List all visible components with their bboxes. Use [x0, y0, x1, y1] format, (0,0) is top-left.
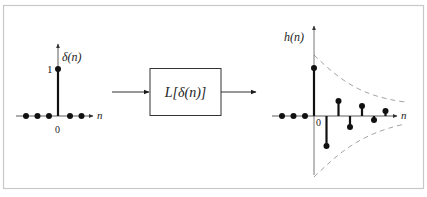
output-sample-n2: [336, 98, 342, 104]
output-sample-n3: [347, 124, 353, 130]
output-sample-n4: [359, 103, 365, 109]
output-sample-n1: [324, 143, 330, 149]
impulse-response-diagram: δ(n) 1 0 n L[δ(n)]: [0, 0, 427, 197]
input-sample-nm1: [46, 113, 52, 119]
output-sample-n5: [371, 117, 377, 123]
system-block-label: L[δ(n)]: [164, 85, 207, 101]
system: L[δ(n)]: [112, 69, 256, 116]
input-unit-label: 1: [47, 63, 53, 75]
output-plot: h(n) 0 n: [272, 26, 407, 177]
input-sample-n1: [67, 113, 73, 119]
input-signal-label: δ(n): [62, 50, 82, 64]
output-sample-n0: [311, 65, 317, 71]
input-n-axis-label: n: [97, 109, 103, 121]
output-sample-n6: [383, 108, 389, 114]
output-sample-nm2: [291, 113, 297, 119]
output-origin-label: 0: [316, 117, 321, 128]
input-sample-nm3: [23, 113, 29, 119]
upper-envelope: [314, 55, 405, 102]
input-sample-nm2: [35, 113, 41, 119]
output-n-axis-label: n: [401, 109, 407, 121]
output-sample-nm1: [302, 113, 308, 119]
input-origin-label: 0: [55, 124, 60, 135]
input-sample-n0: [55, 66, 61, 72]
input-sample-n2: [79, 113, 85, 119]
lower-envelope: [314, 124, 405, 177]
output-sample-nm3: [279, 113, 285, 119]
output-signal-label: h(n): [284, 30, 304, 44]
input-plot: δ(n) 1 0 n: [16, 44, 103, 135]
